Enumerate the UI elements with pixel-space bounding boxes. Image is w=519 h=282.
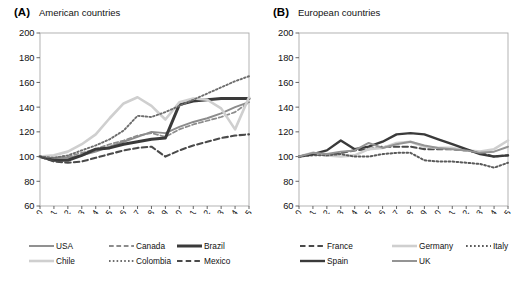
legend-label: Mexico: [203, 256, 230, 266]
y-axis-tick-label: 140: [278, 103, 294, 113]
legend-key-mexico-icon: [176, 256, 203, 265]
legend-item-france[interactable]: France: [299, 241, 353, 251]
legend-key-chile-icon: [28, 256, 55, 265]
legend-item-brazil[interactable]: Brazil: [176, 241, 225, 251]
y-axis-tick-label: 60: [24, 201, 34, 211]
legend-key-usa-icon: [28, 241, 55, 250]
y-axis-tick-label: 120: [278, 127, 294, 137]
figure-root: (A) American countries 60801001201401601…: [0, 0, 519, 282]
y-axis-tick-label: 200: [19, 28, 35, 38]
legend-label: France: [326, 241, 353, 251]
panel-a-letter: (A): [14, 6, 30, 18]
panel-b-title: European countries: [298, 7, 380, 18]
y-axis-tick-label: 140: [19, 103, 35, 113]
legend-item-colombia[interactable]: Colombia: [108, 256, 171, 266]
legend-label: UK: [418, 256, 431, 266]
y-axis-tick-label: 100: [278, 152, 294, 162]
panel-b-header: (B) European countries: [273, 4, 380, 20]
legend-item-chile[interactable]: Chile: [28, 256, 75, 266]
legend-key-italy-icon: [465, 241, 492, 250]
legend-item-spain[interactable]: Spain: [299, 256, 348, 266]
legend-key-spain-icon: [299, 256, 326, 265]
legend-row: ChileColombiaMexico: [0, 253, 259, 268]
y-axis-tick-label: 160: [19, 78, 35, 88]
y-axis-tick-label: 80: [24, 177, 34, 187]
legend-key-germany-icon: [391, 241, 418, 250]
legend-key-colombia-icon: [108, 256, 135, 265]
y-axis-tick-label: 200: [278, 28, 294, 38]
legend-row: FranceGermanyItaly: [259, 238, 518, 253]
panel-a-legend: USACanadaBrazilChileColombiaMexico: [0, 238, 259, 268]
y-axis-tick-label: 60: [283, 201, 293, 211]
panel-b-legend: FranceGermanyItalySpainUK: [259, 238, 518, 268]
legend-label: Germany: [418, 241, 453, 251]
legend-label: USA: [55, 241, 73, 251]
panel-a-plot: 6080100120140160180200200020012002200320…: [0, 26, 259, 214]
legend-label: Brazil: [203, 241, 225, 251]
legend-key-brazil-icon: [176, 241, 203, 250]
panel-a-title: American countries: [39, 7, 120, 18]
legend-item-usa[interactable]: USA: [28, 241, 73, 251]
legend-item-germany[interactable]: Germany: [391, 241, 453, 251]
chart-panel-european: (B) European countries 60801001201401601…: [259, 0, 518, 282]
legend-item-canada[interactable]: Canada: [108, 241, 165, 251]
legend-row: USACanadaBrazil: [0, 238, 259, 253]
chart-panel-american: (A) American countries 60801001201401601…: [0, 0, 259, 282]
panel-b-svg: 6080100120140160180200200020012002200320…: [259, 26, 518, 214]
y-axis-tick-label: 160: [278, 78, 294, 88]
y-axis-tick-label: 80: [283, 177, 293, 187]
panel-b-plot: 6080100120140160180200200020012002200320…: [259, 26, 518, 214]
y-axis-tick-label: 120: [19, 127, 35, 137]
legend-item-uk[interactable]: UK: [391, 256, 431, 266]
legend-key-canada-icon: [108, 241, 135, 250]
legend-item-italy[interactable]: Italy: [465, 241, 508, 251]
panel-a-svg: 6080100120140160180200200020012002200320…: [0, 26, 259, 214]
y-axis-tick-label: 100: [19, 152, 35, 162]
legend-key-france-icon: [299, 241, 326, 250]
y-axis-tick-label: 180: [278, 53, 294, 63]
legend-row: SpainUK: [259, 253, 518, 268]
legend-label: Chile: [55, 256, 75, 266]
panel-b-letter: (B): [273, 6, 289, 18]
legend-key-uk-icon: [391, 256, 418, 265]
legend-label: Canada: [135, 241, 165, 251]
legend-label: Spain: [326, 256, 348, 266]
legend-item-mexico[interactable]: Mexico: [176, 256, 230, 266]
y-axis-tick-label: 180: [19, 53, 35, 63]
legend-label: Italy: [492, 241, 508, 251]
panel-a-header: (A) American countries: [14, 4, 120, 20]
legend-label: Colombia: [135, 256, 171, 266]
